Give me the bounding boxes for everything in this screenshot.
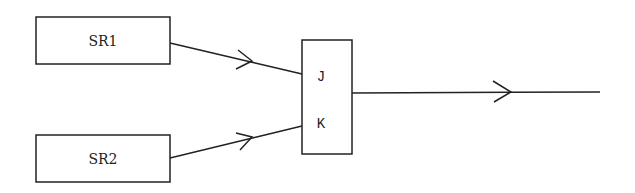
sr1-to-j-arrow [170,43,302,74]
jk-flipflop-block: J K [302,40,352,154]
sr2-label: SR2 [88,151,117,167]
k-input-label: K [317,116,326,132]
output-arrow [352,81,600,102]
sr2-block: SR2 [36,135,170,182]
sr2-to-k-arrow [170,126,302,158]
block-diagram: SR1 SR2 J K [0,0,635,193]
sr1-block: SR1 [36,17,170,64]
sr1-label: SR1 [88,33,117,49]
j-input-label: J [317,69,325,85]
arrowhead-icon [493,81,511,102]
